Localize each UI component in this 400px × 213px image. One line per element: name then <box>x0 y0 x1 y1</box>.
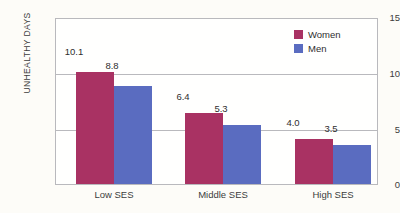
legend-swatch-women-icon <box>294 30 303 39</box>
value-label-high-ses-men: 3.5 <box>308 124 354 134</box>
x-tick-label-high-ses: High SES <box>278 190 388 200</box>
y-axis-title: UNHEALTHY DAYS <box>22 0 32 108</box>
bar-high-ses-women <box>295 139 333 184</box>
x-tick-label-low-ses: Low SES <box>59 190 169 200</box>
bar-high-ses-men <box>333 145 371 184</box>
legend-swatch-men-icon <box>294 44 303 53</box>
bar-middle-ses-men <box>223 125 261 184</box>
bar-middle-ses-women <box>185 113 223 184</box>
legend-item-men: Men <box>294 43 341 54</box>
value-label-low-ses-men: 8.8 <box>89 61 135 71</box>
value-label-middle-ses-women: 6.4 <box>160 92 206 102</box>
value-label-low-ses-women: 10.1 <box>51 47 97 57</box>
bar-low-ses-men <box>114 86 152 184</box>
legend-label-men: Men <box>308 44 326 54</box>
legend-label-women: Women <box>308 30 341 40</box>
x-tick-label-middle-ses: Middle SES <box>168 190 278 200</box>
value-label-middle-ses-men: 5.3 <box>198 104 244 114</box>
bar-low-ses-women <box>76 72 114 184</box>
legend-item-women: Women <box>294 29 341 40</box>
legend: Women Men <box>294 29 341 57</box>
bar-chart-figure: UNHEALTHY DAYS 15 10 5 0 10.1 8.8 6.4 5.… <box>0 0 400 213</box>
